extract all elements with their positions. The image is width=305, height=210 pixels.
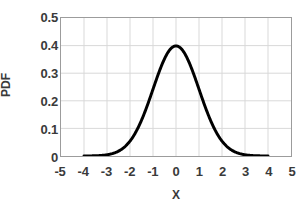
x-axis-tick-label: 0	[164, 165, 188, 178]
y-axis-tick-label: 0.5	[2, 11, 58, 24]
x-axis-tick-label: -4	[71, 165, 95, 178]
x-axis-tick-label: -2	[118, 165, 142, 178]
vertical-gridlines	[84, 18, 268, 156]
y-axis-tick-label: 0.1	[2, 123, 58, 136]
y-axis-tick-label: 0	[2, 151, 58, 164]
chart-container: 0.50.40.30.20.10 -5-4-3-2-1012345 X PDF	[0, 0, 305, 210]
x-axis-tick-labels: -5-4-3-2-1012345	[0, 165, 305, 181]
y-axis-title: PDF	[0, 55, 13, 115]
x-axis-tick-label: -1	[141, 165, 165, 178]
x-axis-tick-label: 5	[280, 165, 304, 178]
plot-svg	[61, 18, 291, 156]
x-axis-tick-label: 1	[187, 165, 211, 178]
x-axis-tick-label: -5	[48, 165, 72, 178]
x-axis-tick-label: -3	[94, 165, 118, 178]
y-axis-tick-label: 0.4	[2, 39, 58, 52]
x-axis-tick-label: 3	[234, 165, 258, 178]
x-axis-tick-label: 2	[210, 165, 234, 178]
x-axis-tick-label: 4	[257, 165, 281, 178]
plot-area	[60, 17, 292, 157]
x-axis-title: X	[60, 188, 292, 202]
